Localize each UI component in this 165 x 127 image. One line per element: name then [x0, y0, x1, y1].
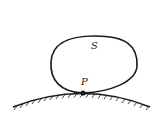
label-p: P [81, 76, 88, 87]
label-s: S [91, 40, 98, 51]
diagram-canvas [0, 0, 165, 127]
ground-hatching [14, 94, 149, 111]
contact-point-p [80, 90, 85, 95]
